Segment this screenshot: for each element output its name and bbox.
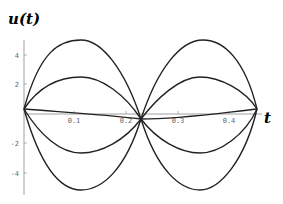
y-axis-label: u(t) [8, 10, 40, 28]
y-tick-neg4: -4 [11, 170, 19, 178]
y-ticks: 4 2 -2 -4 [11, 52, 27, 178]
curve-5 [24, 40, 257, 190]
curve-1 [24, 40, 257, 190]
x-axis-label: t [264, 109, 271, 127]
y-tick-4: 4 [15, 52, 19, 60]
curve-2 [24, 77, 257, 153]
y-tick-2: 2 [15, 81, 19, 89]
x-tick-0.1: 0.1 [68, 117, 81, 125]
curves [24, 40, 257, 190]
x-tick-0.4: 0.4 [223, 117, 236, 125]
chart: u(t) t 4 2 -2 -4 0.1 0.2 0.3 0.4 [0, 0, 283, 204]
x-ticks: 0.1 0.2 0.3 0.4 [68, 111, 236, 125]
curve-4 [24, 77, 257, 153]
y-tick-neg2: -2 [11, 140, 19, 148]
